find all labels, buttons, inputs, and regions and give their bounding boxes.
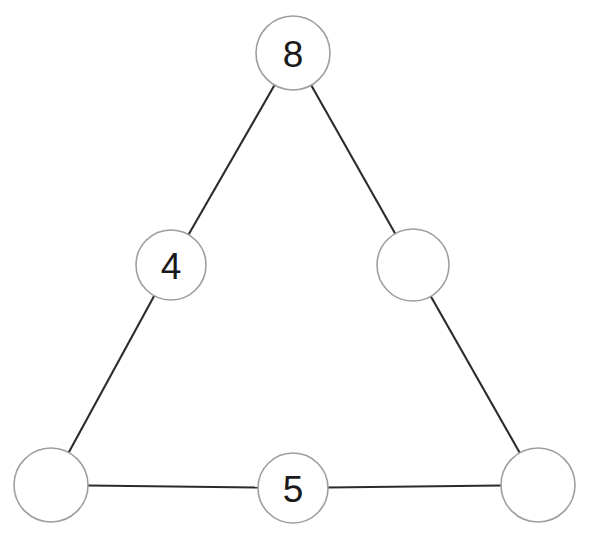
- node-label-left-middle: 4: [161, 246, 182, 287]
- edge-left-middle-to-bottom-left: [69, 296, 155, 453]
- node-circle-right-middle[interactable]: [377, 229, 449, 301]
- triangle-puzzle-diagram: 845: [0, 0, 599, 546]
- edges-group: [69, 85, 520, 488]
- diagram-canvas: 845: [0, 0, 599, 546]
- edge-bottom-left-to-bottom-middle: [88, 485, 258, 487]
- node-left-middle[interactable]: 4: [136, 230, 206, 300]
- edge-bottom-middle-to-bottom-right: [328, 485, 501, 487]
- node-label-bottom-middle: 5: [283, 469, 304, 510]
- node-bottom-right[interactable]: [501, 448, 575, 522]
- edge-right-middle-to-bottom-right: [431, 296, 520, 453]
- node-bottom-middle[interactable]: 5: [258, 453, 328, 523]
- node-bottom-left[interactable]: [14, 448, 88, 522]
- node-circle-bottom-right[interactable]: [501, 448, 575, 522]
- node-top[interactable]: 8: [256, 16, 330, 90]
- node-label-top: 8: [283, 34, 304, 75]
- node-right-middle[interactable]: [377, 229, 449, 301]
- node-circle-bottom-left[interactable]: [14, 448, 88, 522]
- edge-top-to-left-middle: [188, 85, 274, 235]
- nodes-group: 845: [14, 16, 575, 523]
- edge-top-to-right-middle: [311, 85, 395, 233]
